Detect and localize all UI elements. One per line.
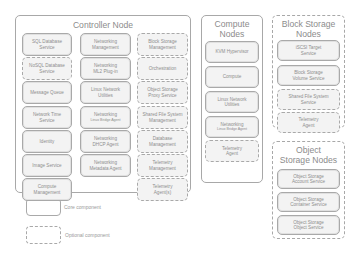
component-object-storage-object-service: Object StorageObject Service [277, 215, 340, 235]
controller-node-title: Controller Node [16, 20, 190, 30]
component-label-line1: Shared File System [288, 94, 328, 99]
component-label-line2: Management [149, 166, 176, 171]
component-telemetry-agent: TelemetryAgent [277, 112, 340, 133]
component-database-management: DatabaseManagement [137, 130, 188, 153]
block-storage-title-line2: Nodes [273, 29, 344, 39]
component-compute-management: ComputeManagement [22, 178, 72, 201]
component-networking-linux-bridge-agent: NetworkingLinux Bridge Agent [205, 116, 259, 138]
component-label-line2: Service [29, 69, 65, 74]
component-orchestration: Orchestration [137, 57, 188, 80]
component-telemetry-agent-s: TelemetryAgent(s) [137, 178, 188, 201]
component-label-line1: SQL Database [32, 39, 62, 44]
component-label-line1: Block Storage [293, 70, 325, 75]
component-label-line1: Message Queue [30, 90, 64, 95]
component-kvm-hypervisor: KVM Hypervisor [205, 41, 259, 63]
component-label-line2: Object Service [293, 225, 324, 230]
component-label-line1: Networking [89, 160, 121, 165]
component-label-line1: iSCSI Target [296, 45, 322, 50]
component-label-line1: Shared File System [142, 112, 182, 117]
component-label-line1: Networking [93, 63, 118, 68]
component-label-line2: Linux Bridge Agent [217, 127, 247, 132]
component-label-line1: Networking [92, 39, 119, 44]
component-label-line2: Metadata Agent [89, 166, 121, 171]
object-storage-title-line2: Storage Nodes [273, 155, 344, 165]
component-label-line2: Container Service [290, 202, 327, 207]
component-label-line2: Management [142, 118, 182, 123]
component-label-line1: KVM Hypervisor [215, 49, 248, 54]
component-label-line2: Linux Bridge Agent [90, 118, 120, 123]
component-label-line1: Telemetry [149, 160, 176, 165]
legend-optional-swatch [26, 226, 61, 244]
component-nosql-database-service: NoSQL DatabaseService [22, 57, 72, 80]
component-image-service: Image Service [22, 154, 72, 177]
component-network-time-service: Network TimeService [22, 106, 72, 129]
component-label-line1: Telemetry [153, 184, 173, 189]
component-label-line2: Utilities [91, 93, 120, 98]
component-message-queue: Message Queue [22, 81, 72, 104]
block-storage-title-line1: Block Storage [273, 19, 344, 29]
component-label-line1: Database [149, 136, 176, 141]
component-block-storage-volume-service: Block StorageVolume Service [277, 65, 340, 86]
component-object-storage-proxy-service: Object StorageProxy Service [137, 81, 188, 104]
component-telemetry-agent: TelemetryAgent [205, 140, 259, 162]
component-label-line1: Linux Network [91, 87, 120, 92]
component-label-line1: Compute [223, 74, 242, 79]
component-label-line2: Agent [222, 151, 242, 156]
component-label-line2: Account Service [292, 179, 325, 184]
component-compute: Compute [205, 66, 259, 88]
component-label-line1: Networking [90, 112, 120, 117]
component-label-line2: Agent(s) [153, 190, 173, 195]
component-label-line2: Service [33, 118, 61, 123]
legend-core-label: Core component [64, 204, 101, 210]
component-label-line1: Orchestration [149, 66, 177, 71]
component-linux-network-utilities: Linux NetworkUtilities [80, 81, 131, 104]
object-storage-title-line1: Object [273, 145, 344, 155]
component-shared-file-system-management: Shared File SystemManagement [137, 106, 188, 129]
component-label-line2: Management [34, 190, 61, 195]
compute-nodes-title-line1: Compute [202, 19, 262, 29]
component-label-line2: Volume Service [293, 76, 325, 81]
component-label-line1: Identity [40, 139, 55, 144]
legend-optional-label: Optional component [65, 232, 110, 238]
component-object-storage-account-service: Object StorageAccount Service [277, 169, 340, 189]
component-label-line1: Networking [93, 136, 119, 141]
component-iscsi-target-service: iSCSI TargetService [277, 40, 340, 61]
component-sql-database-service: SQL DatabaseService [22, 33, 72, 56]
component-networking-linux-bridge-agent: NetworkingLinux Bridge Agent [80, 106, 131, 129]
component-label-line1: Object Storage [147, 87, 178, 92]
component-label-line2: Agent [299, 123, 319, 128]
component-identity: Identity [22, 130, 72, 153]
component-label-line1: Image Service [32, 163, 61, 168]
component-label-line1: NoSQL Database [29, 63, 65, 68]
component-networking-metadata-agent: NetworkingMetadata Agent [80, 154, 131, 177]
component-label-line1: Block Storage [148, 39, 177, 44]
component-block-storage-management: Block StorageManagement [137, 33, 188, 56]
component-label-line2: DHCP Agent [93, 142, 119, 147]
component-label-line2: Utilities [217, 102, 246, 107]
component-shared-file-system-service: Shared File SystemService [277, 89, 340, 110]
compute-nodes-title-line2: Nodes [202, 29, 262, 39]
component-label-line2: Service [288, 100, 328, 105]
component-networking-dhcp-agent: NetworkingDHCP Agent [80, 130, 131, 153]
component-label-line1: Network Time [33, 112, 61, 117]
component-networking-ml2-plug-in: NetworkingML2 Plug-in [80, 57, 131, 80]
component-label-line2: Proxy Service [147, 93, 178, 98]
component-label-line2: Management [149, 142, 176, 147]
component-label-line2: Management [92, 45, 119, 50]
component-label-line2: Management [148, 45, 177, 50]
component-telemetry-management: TelemetryManagement [137, 154, 188, 177]
component-label-line2: Service [32, 45, 62, 50]
component-label-line1: Telemetry [299, 117, 319, 122]
component-networking-management: NetworkingManagement [80, 33, 131, 56]
component-object-storage-container-service: Object StorageContainer Service [277, 192, 340, 212]
component-label-line2: ML2 Plug-in [93, 69, 118, 74]
component-linux-network-utilities: Linux NetworkUtilities [205, 91, 259, 113]
component-label-line2: Service [296, 51, 322, 56]
